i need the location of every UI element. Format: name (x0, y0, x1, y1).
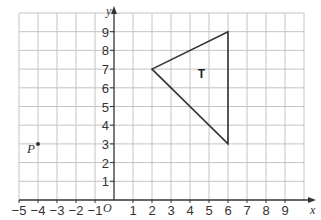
coordinate-plane: xyO −5−4−3−2−1123456789123456789 T P (0, 0, 321, 220)
x-tick-label: −5 (12, 203, 27, 218)
x-tick-label: −2 (69, 203, 84, 218)
grid-lines (19, 13, 304, 200)
x-tick-label: 8 (262, 203, 269, 218)
y-tick-label: 3 (102, 137, 109, 152)
point-label: P (26, 141, 35, 156)
x-tick-label: 2 (148, 203, 155, 218)
x-tick-label: 3 (167, 203, 174, 218)
x-tick-label: 1 (129, 203, 136, 218)
x-tick-label: 5 (205, 203, 212, 218)
coordinate-grid-figure: xyO −5−4−3−2−1123456789123456789 T P (0, 0, 321, 220)
point-p (36, 142, 40, 146)
x-tick-label: −4 (31, 203, 46, 218)
y-tick-label: 2 (102, 156, 109, 171)
origin-label: O (103, 201, 112, 215)
y-tick-label: 7 (102, 62, 109, 77)
x-tick-label: 6 (224, 203, 231, 218)
x-tick-label: 9 (281, 203, 288, 218)
y-axis-arrow-icon (111, 6, 117, 14)
x-tick-label: 7 (243, 203, 250, 218)
shape-label: T (198, 67, 206, 81)
x-tick-label: 4 (186, 203, 193, 218)
y-tick-label: 1 (102, 174, 109, 189)
x-tick-label: −1 (88, 203, 103, 218)
y-tick-label: 8 (102, 43, 109, 58)
y-tick-label: 4 (102, 118, 109, 133)
y-tick-label: 9 (102, 25, 109, 40)
x-tick-label: −3 (50, 203, 65, 218)
y-axis-label: y (105, 4, 112, 18)
axes: xyO (19, 4, 316, 217)
y-tick-label: 6 (102, 81, 109, 96)
y-tick-label: 5 (102, 100, 109, 115)
x-axis-label: x (309, 203, 316, 217)
